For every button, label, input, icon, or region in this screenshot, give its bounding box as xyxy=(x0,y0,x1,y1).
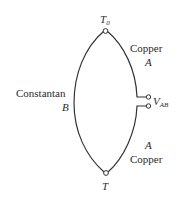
lower-copper-material-label: Copper xyxy=(130,154,162,165)
bottom-junction-node xyxy=(104,171,109,176)
thermocouple-diagram: T0 Copper A Constantan B VAB A Copper T xyxy=(0,0,182,206)
upper-copper-material-label: Copper xyxy=(130,43,162,54)
constantan-material-label: Constantan xyxy=(16,88,66,99)
top-junction-label-sub: 0 xyxy=(106,19,110,27)
upper-copper-letter-label: A xyxy=(145,57,152,68)
terminal-lower-node xyxy=(146,104,150,108)
terminal-upper-node xyxy=(146,95,150,99)
bottom-junction-label: T xyxy=(102,181,108,192)
constantan-wire xyxy=(74,31,104,172)
terminal-voltage-label-sub: AB xyxy=(160,101,169,109)
top-junction-label: T0 xyxy=(100,14,110,27)
top-junction-node xyxy=(103,29,108,34)
lower-copper-letter-label: A xyxy=(145,140,152,151)
terminal-voltage-label: VAB xyxy=(153,96,168,109)
copper-wire-upper xyxy=(107,31,146,97)
terminal-voltage-label-main: V xyxy=(153,95,160,107)
constantan-letter-label: B xyxy=(62,102,69,113)
